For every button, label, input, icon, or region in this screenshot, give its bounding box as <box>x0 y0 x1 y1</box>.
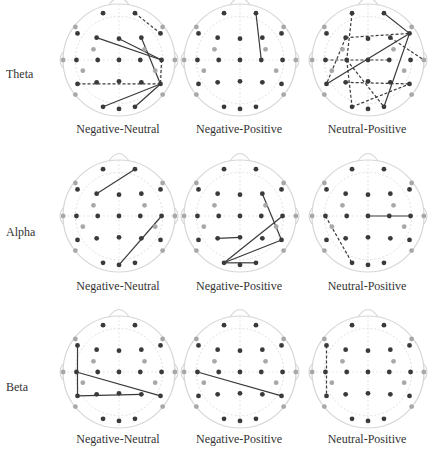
electrode-f3 <box>343 191 348 196</box>
electrode-t8 <box>280 370 285 375</box>
electrode-cp6 <box>402 380 407 385</box>
electrode-fz <box>366 348 371 353</box>
electrode-cz <box>117 214 122 219</box>
electrode-f3 <box>215 191 220 196</box>
electrode-oz <box>366 419 371 424</box>
electrode-p7 <box>196 394 201 399</box>
electrode-fc6 <box>391 47 396 52</box>
electrode-o2 <box>382 260 387 265</box>
connection-edge <box>224 216 283 263</box>
electrode-cp5 <box>329 380 334 385</box>
electrode-pz <box>238 235 243 240</box>
electrode-f3 <box>343 347 348 352</box>
electrode-cp5 <box>80 380 85 385</box>
electrode-fc6 <box>263 203 268 208</box>
electrode-f4 <box>388 347 393 352</box>
connection-edge <box>327 38 346 84</box>
head-map-theta-negative-neutral <box>53 0 185 126</box>
electrode-o1 <box>222 416 227 421</box>
electrode-fc6 <box>391 203 396 208</box>
electrode-t9 <box>182 214 187 219</box>
electrode-c4 <box>387 214 392 219</box>
electrode-f8 <box>158 31 163 36</box>
electrode-po7 <box>322 248 327 253</box>
electrode-fc6 <box>142 359 147 364</box>
electrode-af7 <box>322 25 327 30</box>
electrode-fc6 <box>142 203 147 208</box>
electrode-f8 <box>279 343 284 348</box>
electrode-f7 <box>75 31 80 36</box>
electrode-c4 <box>259 214 264 219</box>
electrode-fz <box>238 36 243 41</box>
electrode-f7 <box>75 187 80 192</box>
electrode-p4 <box>260 392 265 397</box>
electrode-pz <box>366 391 371 396</box>
electrode-f8 <box>407 187 412 192</box>
electrode-f7 <box>324 187 329 192</box>
electrode-cp5 <box>329 68 334 73</box>
electrode-t8 <box>280 214 285 219</box>
electrode-t10 <box>293 214 298 219</box>
electrode-t9 <box>310 370 315 375</box>
electrode-po8 <box>281 248 286 253</box>
connection-edge <box>160 60 161 84</box>
electrode-po8 <box>160 404 165 409</box>
electrode-t7 <box>195 214 200 219</box>
electrode-cp5 <box>201 68 206 73</box>
electrode-o1 <box>101 416 106 421</box>
electrode-fc5 <box>212 203 217 208</box>
electrode-af7 <box>73 25 78 30</box>
electrode-af7 <box>73 337 78 342</box>
electrode-fp1 <box>222 167 227 172</box>
electrode-t7 <box>195 370 200 375</box>
electrode-cp6 <box>402 224 407 229</box>
electrode-p7 <box>196 238 201 243</box>
electrode-p3 <box>215 80 220 85</box>
electrode-af8 <box>409 25 414 30</box>
electrode-p7 <box>324 394 329 399</box>
electrode-p3 <box>343 80 348 85</box>
electrode-o2 <box>133 260 138 265</box>
electrode-f8 <box>158 343 163 348</box>
electrode-fp1 <box>350 323 355 328</box>
electrode-oz <box>238 263 243 268</box>
electrode-t8 <box>408 214 413 219</box>
electrode-o2 <box>133 104 138 109</box>
electrode-o1 <box>101 260 106 265</box>
electrode-fz <box>117 348 122 353</box>
electrode-t9 <box>61 370 66 375</box>
electrode-cp6 <box>274 68 279 73</box>
electrode-c3 <box>216 58 221 63</box>
electrode-p4 <box>388 236 393 241</box>
electrode-cp6 <box>274 224 279 229</box>
electrode-cp6 <box>274 380 279 385</box>
electrode-c3 <box>344 58 349 63</box>
electrode-af7 <box>322 337 327 342</box>
connection-edge <box>346 33 410 37</box>
electrode-cp6 <box>153 380 158 385</box>
electrode-p7 <box>75 238 80 243</box>
electrode-o1 <box>350 416 355 421</box>
head-map-beta-negative-neutral <box>53 306 185 438</box>
connection-edge <box>97 169 135 193</box>
electrode-cz <box>238 370 243 375</box>
electrode-p3 <box>343 236 348 241</box>
electrode-fp2 <box>382 323 387 328</box>
electrode-t10 <box>293 58 298 63</box>
electrode-af8 <box>160 181 165 186</box>
electrode-cp5 <box>80 224 85 229</box>
electrode-af7 <box>73 181 78 186</box>
electrode-pz <box>117 391 122 396</box>
electrode-p8 <box>407 238 412 243</box>
electrode-fz <box>117 36 122 41</box>
row-label-beta: Beta <box>6 380 28 395</box>
electrode-p8 <box>158 394 163 399</box>
electrode-po8 <box>409 404 414 409</box>
electrode-af8 <box>281 181 286 186</box>
electrode-p7 <box>75 82 80 87</box>
electrode-af7 <box>194 337 199 342</box>
electrode-p7 <box>75 394 80 399</box>
electrode-p7 <box>324 238 329 243</box>
electrode-fp2 <box>254 11 259 16</box>
electrode-p8 <box>158 238 163 243</box>
